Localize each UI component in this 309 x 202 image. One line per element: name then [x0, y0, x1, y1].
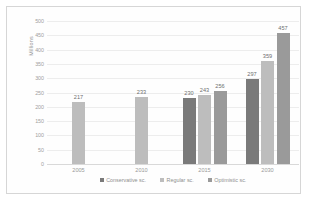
bar-group: 233	[110, 21, 173, 164]
bar	[72, 102, 85, 164]
legend-item[interactable]: Regular sc.	[160, 177, 194, 183]
y-axis-tick: 100	[10, 132, 44, 138]
y-axis-tick-labels: 050100150200250300350400450500	[7, 21, 44, 164]
bar	[214, 91, 227, 164]
chart-frame: Millions 050100150200250300350400450500 …	[6, 6, 301, 194]
bar-group: 297359457	[236, 21, 299, 164]
plot-area: 2005217201023320152302432562030297359457	[47, 21, 299, 164]
bar-group: 217	[47, 21, 110, 164]
legend-item[interactable]: Optimistic sc.	[208, 177, 247, 183]
y-axis-tick: 150	[10, 118, 44, 124]
x-axis-tick: 2005	[49, 167, 109, 173]
bar-group: 230243256	[173, 21, 236, 164]
legend-item[interactable]: Conservative sc.	[100, 177, 146, 183]
bar	[261, 61, 274, 164]
legend-label: Conservative sc.	[106, 177, 146, 183]
chart-legend: Conservative sc.Regular sc.Optimistic sc…	[47, 177, 299, 183]
y-axis-tick: 400	[10, 47, 44, 53]
bar-value-label: 233	[125, 89, 159, 95]
y-axis-tick: 200	[10, 104, 44, 110]
bar	[198, 95, 211, 164]
x-axis-line	[47, 164, 299, 165]
x-axis-tick: 2010	[112, 167, 172, 173]
bar	[183, 98, 196, 164]
legend-swatch-icon	[160, 178, 164, 182]
x-axis-tick: 2015	[175, 167, 235, 173]
y-axis-tick: 300	[10, 75, 44, 81]
bar-value-label: 256	[203, 83, 237, 89]
y-axis-tick: 250	[10, 90, 44, 96]
bar	[135, 97, 148, 164]
y-axis-tick: 350	[10, 61, 44, 67]
y-axis-tick: 450	[10, 32, 44, 38]
x-axis-tick: 2030	[238, 167, 298, 173]
legend-label: Optimistic sc.	[214, 177, 246, 183]
legend-swatch-icon	[100, 178, 104, 182]
y-axis-tick: 500	[10, 18, 44, 24]
bar-value-label: 217	[62, 94, 96, 100]
legend-swatch-icon	[208, 178, 212, 182]
bar-value-label: 457	[266, 25, 300, 31]
y-axis-tick: 0	[10, 161, 44, 167]
legend-label: Regular sc.	[167, 177, 194, 183]
bar	[246, 79, 259, 164]
bar	[277, 33, 290, 164]
y-axis-tick: 50	[10, 147, 44, 153]
